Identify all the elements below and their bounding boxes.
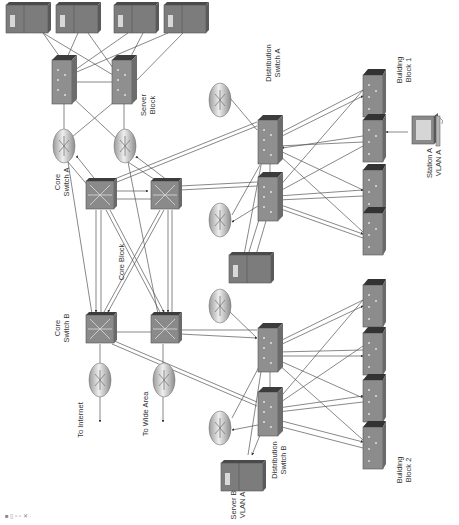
svg-text:Distribution: Distribution bbox=[264, 44, 273, 82]
internet-router bbox=[89, 363, 111, 397]
svg-text:Building: Building bbox=[395, 457, 404, 484]
svg-text:Switch A: Switch A bbox=[62, 168, 71, 197]
dist-b-router-2 bbox=[209, 411, 231, 445]
label-core-switch-a: Core Switch A bbox=[53, 168, 71, 197]
label-station-a: Station A VLAN A bbox=[425, 148, 443, 178]
label-building-block-2: Building Block 2 bbox=[395, 457, 413, 484]
server-3 bbox=[114, 2, 159, 33]
svg-text:VLAN A: VLAN A bbox=[434, 150, 443, 176]
svg-text:Block 2: Block 2 bbox=[404, 458, 413, 483]
building-block-2-switch-3 bbox=[363, 374, 386, 422]
server-1 bbox=[6, 2, 51, 33]
distribution-switch-b bbox=[258, 387, 283, 436]
svg-text:Switch A: Switch A bbox=[273, 49, 282, 78]
dist-b-router-1 bbox=[209, 289, 231, 323]
building-block-2-switch-2 bbox=[363, 327, 386, 375]
building-block-2-switch-4 bbox=[363, 421, 386, 469]
server-router-2 bbox=[114, 129, 136, 163]
dist-a-router-2 bbox=[209, 203, 231, 237]
svg-text:Block 1: Block 1 bbox=[404, 58, 413, 83]
label-core-switch-b: Core Switch B bbox=[53, 313, 71, 342]
core-switch-a bbox=[86, 178, 117, 209]
svg-text:Block: Block bbox=[148, 96, 157, 115]
svg-text:Switch B: Switch B bbox=[279, 445, 288, 474]
network-diagram: Server Block Core Switch A Core Switch B… bbox=[0, 0, 459, 525]
label-server-block: Server Block bbox=[139, 93, 157, 116]
label-server-b: Server B VLAN A bbox=[229, 490, 247, 519]
label-core-block: Core Block bbox=[117, 243, 126, 280]
svg-text:Core: Core bbox=[53, 320, 62, 336]
label-building-block-1: Building Block 1 bbox=[395, 57, 413, 84]
svg-text:Core: Core bbox=[53, 174, 62, 190]
server-router-1 bbox=[53, 129, 75, 163]
core-switch-a2 bbox=[151, 178, 182, 209]
building-block-1-switch-3 bbox=[363, 164, 386, 212]
distribution-switch-a bbox=[258, 115, 283, 164]
server-2 bbox=[56, 2, 101, 33]
label-to-internet: To Internet bbox=[76, 401, 85, 437]
label-to-wide-area: To Wide Area bbox=[141, 391, 150, 436]
svg-text:Switch B: Switch B bbox=[62, 313, 71, 342]
svg-text:Core Block: Core Block bbox=[117, 243, 126, 280]
dist-a-server bbox=[229, 252, 274, 283]
svg-text:Distribution: Distribution bbox=[270, 441, 279, 479]
svg-text:Building: Building bbox=[395, 57, 404, 84]
server-4 bbox=[164, 2, 209, 33]
server-switch-1 bbox=[52, 55, 77, 104]
core-switch-b2 bbox=[151, 312, 182, 343]
footer-marks: ■ ▯ ▫ ▫ ✕ · bbox=[5, 512, 31, 519]
dist-a-router-1 bbox=[209, 83, 231, 117]
building-block-1-switch-4 bbox=[363, 207, 386, 255]
server-b bbox=[221, 460, 266, 491]
label-distribution-switch-a: Distribution Switch A bbox=[264, 44, 282, 82]
label-distribution-switch-b: Distribution Switch B bbox=[270, 441, 288, 479]
wan-router bbox=[153, 363, 175, 397]
svg-text:Server: Server bbox=[139, 93, 148, 116]
core-switch-b bbox=[86, 312, 117, 343]
distribution-switch-b2 bbox=[258, 323, 283, 372]
svg-text:To Internet: To Internet bbox=[76, 401, 85, 437]
svg-text:Server B: Server B bbox=[229, 490, 238, 519]
station-a bbox=[412, 113, 443, 146]
svg-text:Station A: Station A bbox=[425, 148, 434, 178]
server-switch-2 bbox=[112, 55, 137, 104]
distribution-switch-a2 bbox=[258, 172, 283, 221]
svg-text:To Wide Area: To Wide Area bbox=[141, 391, 150, 436]
svg-text:VLAN A: VLAN A bbox=[238, 492, 247, 518]
building-block-1-switch-1 bbox=[363, 69, 386, 117]
building-block-1-switch-2 bbox=[363, 114, 386, 162]
building-block-2-switch-1 bbox=[363, 279, 386, 327]
